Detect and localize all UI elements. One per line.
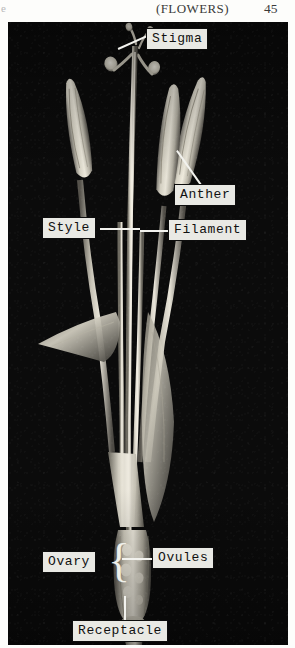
page-number: 45 bbox=[264, 1, 278, 17]
label-filament[interactable]: Filament bbox=[168, 219, 247, 241]
running-head: e (FLOWERS) 45 bbox=[0, 0, 295, 22]
page-canvas: e (FLOWERS) 45 bbox=[0, 0, 295, 648]
label-ovules[interactable]: Ovules bbox=[152, 547, 214, 569]
ovary-brace: { bbox=[108, 538, 130, 584]
running-head-title: (FLOWERS) bbox=[156, 1, 229, 17]
running-head-left-fragment: e bbox=[1, 2, 10, 16]
leader-line-style bbox=[100, 228, 140, 230]
label-anther[interactable]: Anther bbox=[174, 184, 236, 206]
leader-line-filament bbox=[140, 230, 170, 232]
label-ovary[interactable]: Ovary bbox=[42, 551, 96, 573]
label-style[interactable]: Style bbox=[42, 217, 96, 239]
leader-line-receptacle bbox=[124, 596, 126, 622]
label-receptacle[interactable]: Receptacle bbox=[72, 620, 168, 642]
label-stigma[interactable]: Stigma bbox=[146, 28, 208, 50]
